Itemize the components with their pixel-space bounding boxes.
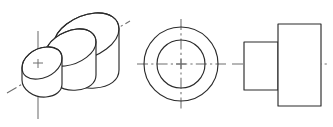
front-view-center-mark xyxy=(176,59,186,69)
front-view xyxy=(137,19,226,110)
boss-rectangle xyxy=(244,42,278,90)
side-view xyxy=(232,24,328,106)
isometric-view xyxy=(7,13,130,119)
drawing-canvas xyxy=(0,0,333,127)
flange-rectangle xyxy=(278,24,321,106)
engineering-drawing-sheet xyxy=(0,0,333,127)
